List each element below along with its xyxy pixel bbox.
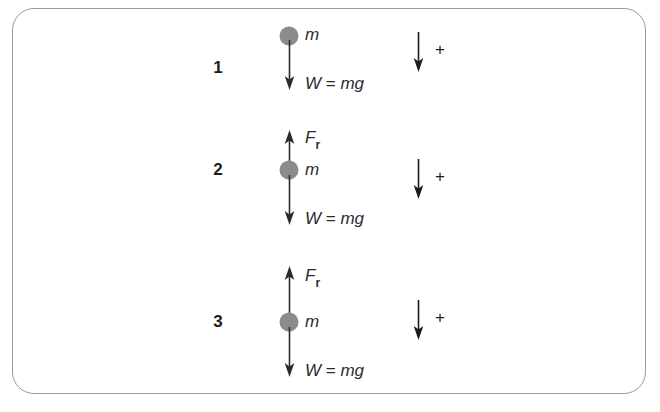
mass-label-3: m [305,312,319,332]
weight-label-3: W = mg [305,361,364,381]
resistance-force-label-3: Fr [305,266,320,288]
weight-label-eq-2: = [321,209,340,228]
resistance-force-label-base-3: F [305,266,315,285]
reference-plus-label-2: + [435,167,445,187]
reference-direction-arrow-1 [411,32,427,74]
resistance-force-label-sub-3: r [315,276,320,290]
resistance-force-label-sub-2: r [315,138,320,152]
reference-direction-arrow-3 [411,300,427,342]
resistance-force-arrow-3 [282,266,298,318]
weight-label-eq-3: = [321,361,340,380]
weight-label-rhs-3: mg [340,361,364,380]
reference-plus-label-1: + [435,40,445,60]
weight-arrow-2 [282,175,298,227]
weight-label-rhs-2: mg [340,209,364,228]
weight-label-1: W = mg [305,74,364,94]
reference-plus-label-3: + [435,308,445,328]
mass-label-1: m [305,25,319,45]
weight-label-rhs-1: mg [340,74,364,93]
mass-label-2: m [305,160,319,180]
weight-label-2: W = mg [305,209,364,229]
figure-border [12,8,646,394]
group-number-3: 3 [213,312,222,332]
weight-label-lhs-1: W [305,74,321,93]
weight-label-eq-1: = [321,74,340,93]
figure-canvas: 1 m W = mg + 2 Fr m W = [0,0,660,412]
resistance-force-label-2: Fr [305,128,320,150]
weight-label-lhs-3: W [305,361,321,380]
weight-arrow-3 [282,327,298,379]
group-number-1: 1 [213,58,222,78]
weight-label-lhs-2: W [305,209,321,228]
group-number-2: 2 [213,160,222,180]
resistance-force-label-base-2: F [305,128,315,147]
weight-arrow-1 [282,40,298,92]
reference-direction-arrow-2 [411,159,427,201]
